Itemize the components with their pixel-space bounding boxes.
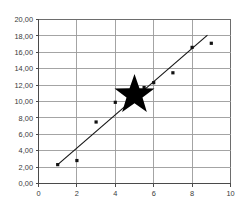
data-point bbox=[210, 42, 213, 45]
y-tick-label: 8,00 bbox=[19, 114, 33, 123]
x-tick-label: 8 bbox=[190, 189, 194, 198]
data-point bbox=[114, 101, 117, 104]
data-point bbox=[171, 71, 174, 74]
y-tick-label: 14,00 bbox=[15, 64, 34, 73]
x-tick-label: 0 bbox=[36, 189, 40, 198]
chart-canvas: 0,002,004,006,008,0010,0012,0014,0016,00… bbox=[0, 0, 244, 205]
y-tick-label: 2,00 bbox=[19, 163, 33, 172]
x-tick-label: 6 bbox=[152, 189, 156, 198]
scatter-chart: 0,002,004,006,008,0010,0012,0014,0016,00… bbox=[0, 0, 244, 205]
y-tick-label: 16,00 bbox=[15, 48, 34, 57]
y-tick-label: 6,00 bbox=[19, 130, 33, 139]
data-point bbox=[75, 159, 78, 162]
x-tick-label: 10 bbox=[226, 189, 234, 198]
y-tick-label: 4,00 bbox=[19, 146, 33, 155]
y-tick-label: 18,00 bbox=[15, 32, 34, 41]
x-tick-label: 4 bbox=[113, 189, 117, 198]
data-point bbox=[95, 120, 98, 123]
y-tick-label: 0,00 bbox=[19, 179, 33, 188]
x-tick-label: 2 bbox=[75, 189, 79, 198]
data-point bbox=[152, 81, 155, 84]
y-tick-label: 12,00 bbox=[15, 81, 34, 90]
data-point bbox=[56, 163, 59, 166]
y-tick-label: 20,00 bbox=[15, 15, 34, 24]
y-tick-label: 10,00 bbox=[15, 97, 34, 106]
data-point bbox=[191, 46, 194, 49]
